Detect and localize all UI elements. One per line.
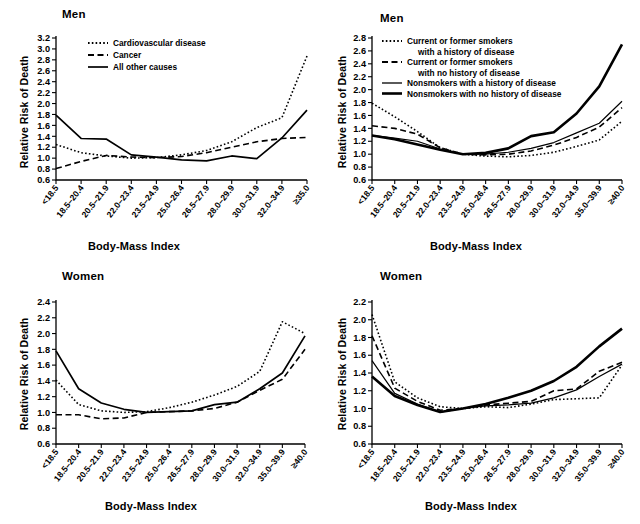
y-tick-label: 0.8 (37, 164, 50, 174)
y-tick-label: 2.0 (37, 329, 50, 339)
x-axis-label: Body-Mass Index (88, 240, 180, 252)
y-tick-label: 1.6 (353, 111, 366, 121)
y-tick-label: 2.4 (37, 77, 51, 87)
y-tick-label: 2.8 (37, 55, 50, 65)
x-tick-label: <18.5 (39, 447, 60, 470)
y-tick-label: 3.2 (37, 33, 50, 43)
y-tick-label: 1.0 (37, 153, 50, 163)
panel-women-cause: Women Relative Risk of Death 2.42.22.01.… (0, 262, 320, 524)
legend-label: Current or former smokers (407, 57, 513, 67)
series-line (372, 329, 622, 412)
series-line (372, 314, 622, 408)
y-tick-label: 3.0 (37, 44, 50, 54)
legend-label: Cardiovascular disease (113, 38, 206, 48)
plot-area-men-cause: 3.23.02.82.62.42.22.01.81.61.41.21.00.80… (0, 0, 320, 262)
legend-label-cont: with a history of disease (417, 47, 515, 57)
y-tick-label: 1.0 (37, 408, 50, 418)
y-tick-label: 1.2 (37, 142, 50, 152)
y-tick-label: 1.4 (353, 124, 367, 134)
x-tick-label: <18.5 (39, 183, 60, 206)
legend-label-cont: with no history of disease (417, 68, 520, 78)
x-axis-label: Body-Mass Index (430, 240, 522, 252)
y-tick-label: 1.2 (353, 136, 366, 146)
y-tick-label: 0.6 (37, 439, 50, 449)
y-tick-label: 0.8 (353, 421, 366, 431)
y-tick-label: 2.8 (353, 33, 366, 43)
y-tick-label: 1.6 (37, 121, 50, 131)
legend-label: Nonsmokers with a history of disease (407, 78, 556, 88)
x-tick-label: <18.5 (355, 183, 376, 206)
y-tick-label: 2.4 (353, 59, 367, 69)
x-axis-label: Body-Mass Index (105, 500, 197, 512)
plot-area-women-cause: 2.42.22.01.81.61.41.21.00.80.6<18.518.5–… (0, 262, 320, 524)
figure-root: Men Relative Risk of Death 3.23.02.82.62… (0, 0, 640, 524)
y-tick-label: 1.8 (353, 333, 366, 343)
plot-area-women-smoking: 2.22.01.81.61.41.21.00.80.6<18.518.5–20.… (320, 262, 640, 524)
series-line (372, 108, 622, 155)
series-line (372, 336, 622, 411)
series-line (56, 56, 307, 158)
panel-men-smoking: Men Relative Risk of Death 2.82.62.42.22… (320, 0, 640, 262)
y-tick-label: 0.6 (353, 175, 366, 185)
x-axis-label: Body-Mass Index (425, 500, 517, 512)
x-tick-label: <18.5 (355, 447, 376, 470)
y-tick-label: 1.6 (37, 360, 50, 370)
y-tick-label: 2.4 (37, 297, 51, 307)
legend-label: Nonsmokers with no history of disease (407, 89, 562, 99)
y-tick-label: 1.4 (37, 376, 51, 386)
legend-label: All other causes (113, 62, 177, 72)
y-tick-label: 1.0 (353, 149, 366, 159)
panel-women-smoking: Women Relative Risk of Death 2.22.01.81.… (320, 262, 640, 524)
series-line (56, 336, 305, 413)
y-tick-label: 2.2 (353, 72, 366, 82)
series-line (372, 101, 622, 154)
x-tick-label: ≥40.0 (605, 183, 626, 206)
x-tick-label: ≥35.0 (290, 183, 311, 206)
legend-label: Current or former smokers (407, 36, 513, 46)
y-tick-label: 2.2 (37, 88, 50, 98)
y-tick-label: 2.2 (37, 313, 50, 323)
y-tick-label: 2.6 (37, 66, 50, 76)
y-tick-label: 1.2 (37, 392, 50, 402)
y-tick-label: 2.0 (353, 85, 366, 95)
y-tick-label: 1.4 (353, 368, 367, 378)
y-tick-label: 2.0 (353, 315, 366, 325)
series-line (56, 110, 307, 161)
x-tick-label: ≥40.0 (288, 447, 309, 470)
y-tick-label: 2.6 (353, 46, 366, 56)
legend-label: Cancer (113, 50, 142, 60)
y-tick-label: 1.8 (353, 98, 366, 108)
y-tick-label: 2.2 (353, 297, 366, 307)
panel-men-cause: Men Relative Risk of Death 3.23.02.82.62… (0, 0, 320, 262)
y-tick-label: 2.0 (37, 99, 50, 109)
y-tick-label: 1.8 (37, 110, 50, 120)
plot-area-men-smoking: 2.82.62.42.22.01.81.61.41.21.00.80.6<18.… (320, 0, 640, 262)
y-tick-label: 0.6 (37, 175, 50, 185)
x-tick-label: ≥40.0 (605, 447, 626, 470)
y-tick-label: 0.6 (353, 439, 366, 449)
y-tick-label: 1.0 (353, 404, 366, 414)
y-tick-label: 0.8 (353, 162, 366, 172)
y-tick-label: 0.8 (37, 423, 50, 433)
y-tick-label: 1.6 (353, 350, 366, 360)
y-tick-label: 1.8 (37, 345, 50, 355)
y-tick-label: 1.2 (353, 386, 366, 396)
series-line (56, 137, 307, 168)
y-tick-label: 1.4 (37, 132, 51, 142)
